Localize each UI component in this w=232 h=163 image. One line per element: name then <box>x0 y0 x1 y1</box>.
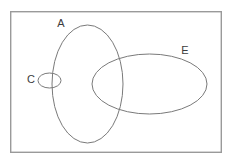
venn-diagram-svg: A E C <box>0 0 232 163</box>
set-label-e: E <box>181 44 188 56</box>
set-ellipse-e[interactable] <box>92 54 207 114</box>
set-label-c: C <box>27 73 35 85</box>
set-ellipse-a[interactable] <box>52 25 123 143</box>
set-label-a: A <box>57 17 65 29</box>
set-ellipse-c[interactable] <box>38 73 61 88</box>
universal-set-box <box>11 12 222 153</box>
venn-diagram-canvas: A E C <box>0 0 232 163</box>
